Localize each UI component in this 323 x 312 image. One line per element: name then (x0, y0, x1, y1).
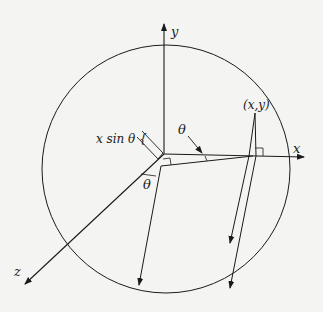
down-arrow-1 (230, 156, 249, 243)
x-axis-label: x (293, 141, 301, 156)
theta-lower-label: θ (143, 177, 151, 192)
theta-upper-label: θ (178, 122, 186, 137)
rotation-diagram: y x z (x,y) x sin θ { θ θ (0, 0, 323, 312)
right-angle-origin (163, 158, 171, 165)
theta-pointer (188, 136, 202, 153)
y-axis-label: y (170, 24, 179, 39)
point-label: (x,y) (243, 98, 270, 112)
offset-label: x sin θ { (96, 132, 147, 146)
down-arrow-2 (230, 156, 256, 288)
circle (42, 45, 290, 293)
point-line-1 (249, 113, 255, 156)
z-axis-label: z (13, 264, 21, 279)
theta-arc-lower (141, 174, 156, 176)
x-axis (164, 154, 304, 157)
diagram-canvas: y x z (x,y) x sin θ { θ θ (0, 0, 323, 312)
theta-arc-upper (205, 156, 207, 161)
point-line-2 (255, 113, 256, 156)
